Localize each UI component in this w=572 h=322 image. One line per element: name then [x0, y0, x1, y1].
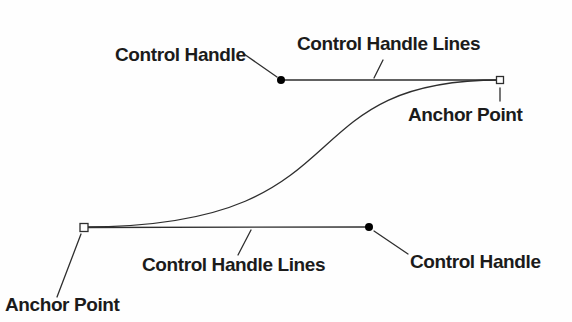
bezier-curve — [84, 80, 500, 227]
bezier-path-anatomy-diagram: Control Handle Control Handle Lines Anch… — [0, 0, 572, 322]
label-control-handle-lines-top: Control Handle Lines — [297, 34, 480, 53]
label-anchor-point-bottom: Anchor Point — [5, 295, 119, 314]
control-handle-line-bottom — [84, 227, 369, 228]
label-control-handle-lines-bottom: Control Handle Lines — [142, 255, 325, 274]
label-anchor-point-top: Anchor Point — [408, 105, 522, 124]
control-handle-point-bottom — [365, 223, 373, 231]
anchor-point-marker-top — [497, 77, 504, 84]
control-handle-point-top — [277, 76, 285, 84]
anchor-point-marker-bottom — [80, 224, 88, 232]
label-control-handle-top: Control Handle — [115, 45, 246, 64]
label-control-handle-bottom: Control Handle — [410, 252, 541, 271]
